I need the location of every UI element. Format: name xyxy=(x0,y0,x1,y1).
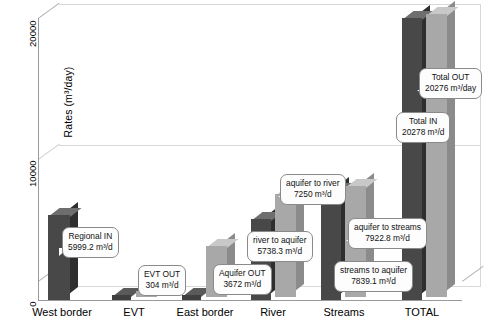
bar-total-out xyxy=(426,14,447,297)
x-axis-label-streams: Streams xyxy=(312,306,376,318)
x-axis-label-evt: EVT xyxy=(104,306,164,318)
callout-title: streams to aquifer xyxy=(340,265,407,275)
depth-line-top xyxy=(38,3,60,19)
callout-title: aquifer to river xyxy=(286,178,340,188)
callout-total-out: Total OUT 20276 m³/day xyxy=(419,68,482,99)
callout-title: Total OUT xyxy=(432,72,470,82)
plot-right-wall xyxy=(480,4,481,287)
bar-evt-in xyxy=(112,295,131,300)
callout-streams-to-aquifer: streams to aquifer 7839.1 m³/d xyxy=(334,261,413,292)
callout-title: river to aquifer xyxy=(253,235,307,245)
callout-value: 20276 m³/day xyxy=(425,83,476,94)
callout-value: 7839.1 m³/d xyxy=(340,276,407,287)
callout-value: 3672 m³/d xyxy=(219,279,266,290)
x-axis-label-west-border: West border xyxy=(22,306,102,318)
callout-title: Aquifer OUT xyxy=(219,268,266,278)
callout-value: 7250 m³/d xyxy=(286,189,340,200)
callout-river-to-aquifer: river to aquifer 5738.3 m³/d xyxy=(247,231,313,262)
callout-value: 20278 m³/d xyxy=(402,127,444,138)
x-axis-label-total: TOTAL xyxy=(390,306,454,318)
bar-front-face xyxy=(112,295,131,300)
y-axis-tick-10000: 10000 xyxy=(27,161,38,201)
callout-value: 7922.8 m³/d xyxy=(354,233,421,244)
callout-title: Total IN xyxy=(409,116,437,126)
depth-line-mid xyxy=(38,144,60,160)
callout-regional-in: Regional IN 5999.2 m³/d xyxy=(62,227,119,258)
x-axis-label-east-border: East border xyxy=(165,306,245,318)
callout-title: Regional IN xyxy=(68,231,112,241)
bar-front-face xyxy=(182,295,201,300)
callout-evt-out: EVT OUT 304 m³/d xyxy=(138,265,186,296)
callout-value: 5999.2 m³/d xyxy=(68,242,113,253)
y-axis-line xyxy=(38,18,39,300)
callout-total-in: Total IN 20278 m³/d xyxy=(396,112,450,143)
x-axis-label-river: River xyxy=(243,306,303,318)
bar-front-face xyxy=(426,14,447,297)
x-axis-line xyxy=(38,300,462,301)
callout-aquifer-out: Aquifer OUT 3672 m³/d xyxy=(213,264,272,295)
y-axis-tick-20000: 20000 xyxy=(27,21,38,61)
callout-title: aquifer to streams xyxy=(354,222,421,232)
callout-value: 5738.3 m³/d xyxy=(253,246,307,257)
y-axis-title: Rates (m³/day) xyxy=(62,32,74,172)
bar-front-face xyxy=(402,18,422,300)
callout-value: 304 m³/d xyxy=(144,280,180,291)
bar-total-in xyxy=(402,18,422,300)
callout-aquifer-to-river: aquifer to river 7250 m³/d xyxy=(280,174,346,205)
bar-east-border-in xyxy=(182,295,201,300)
bar-side-face xyxy=(446,1,455,291)
callout-aquifer-to-streams: aquifer to streams 7922.8 m³/d xyxy=(348,218,427,249)
callout-title: EVT OUT xyxy=(144,269,180,279)
gridline-20000 xyxy=(59,4,480,5)
